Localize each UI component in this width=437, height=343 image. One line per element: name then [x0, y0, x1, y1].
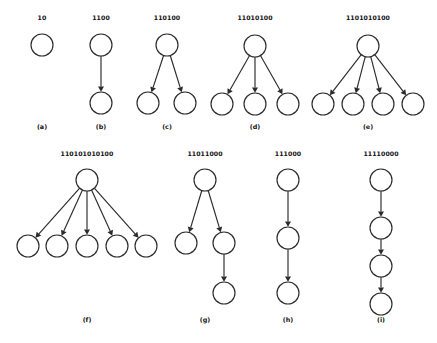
binary-label-i: 11110000 [363, 150, 399, 157]
tree-node-g-grandchild-1 [213, 282, 235, 304]
tree-edge [375, 55, 403, 91]
tree-panel-i: 11110000(i) [363, 150, 399, 324]
panel-caption-i: (i) [377, 316, 385, 324]
tree-node-g-root [194, 169, 216, 191]
edge-arrowhead-icon [98, 87, 104, 92]
tree-node-d-child-3 [277, 93, 299, 115]
binary-label-e: 1101010100 [346, 14, 391, 21]
tree-node-g-child-1 [175, 232, 197, 254]
tree-panel-b: 1100(b) [90, 14, 112, 131]
tree-edge [39, 188, 80, 234]
panel-caption-c: (c) [162, 123, 172, 131]
tree-node-e-child-4 [402, 93, 424, 115]
edge-arrowhead-icon [216, 226, 222, 232]
tree-edge [153, 55, 163, 87]
tree-node-f-child-1 [17, 235, 39, 257]
tree-node-b-child-1 [90, 92, 112, 114]
tree-panel-h: 111000(h) [275, 150, 302, 324]
tree-panel-g: 11011000(g) [175, 150, 235, 324]
tree-node-e-child-2 [342, 93, 364, 115]
tree-node-e-child-1 [312, 93, 334, 115]
binary-label-b: 1100 [92, 14, 110, 21]
tree-node-d-child-2 [244, 93, 266, 115]
tree-node-e-child-3 [372, 93, 394, 115]
tree-node-h-root [277, 169, 299, 191]
figure-root: 10(a)1100(b)110100(c)11010100(d)11010101… [0, 0, 437, 343]
tree-panel-d: 11010100(d) [211, 14, 299, 131]
edge-arrowhead-icon [221, 277, 227, 282]
edge-arrowhead-icon [376, 87, 382, 93]
tree-panel-a: 10(a) [31, 14, 53, 131]
tree-node-b-root [90, 34, 112, 56]
edge-arrowhead-icon [252, 88, 258, 93]
tree-node-c-child-1 [137, 92, 159, 114]
binary-label-h: 111000 [275, 150, 302, 157]
tree-node-c-root [156, 34, 178, 56]
binary-label-a: 10 [38, 14, 47, 21]
tree-edge [333, 55, 361, 91]
tree-node-g-child-2 [213, 232, 235, 254]
edge-arrowhead-icon [84, 230, 90, 235]
edge-arrowhead-icon [188, 226, 194, 232]
binary-label-f: 110101010100 [61, 150, 114, 157]
panel-caption-f: (f) [83, 316, 92, 324]
tree-diagram-canvas: 10(a)1100(b)110100(c)11010100(d)11010101… [0, 0, 437, 343]
binary-label-c: 110100 [154, 14, 181, 21]
tree-node-c-child-2 [174, 92, 196, 114]
tree-node-h-child-2 [277, 282, 299, 304]
tree-node-d-root [244, 35, 266, 57]
tree-node-h-child-1 [277, 227, 299, 249]
panel-caption-d: (d) [250, 123, 260, 131]
tree-node-i-child-1 [370, 217, 392, 239]
tree-edge [170, 56, 180, 88]
panel-caption-g: (g) [200, 316, 210, 324]
panel-caption-h: (h) [283, 316, 293, 324]
panel-caption-b: (b) [96, 123, 106, 131]
edge-arrowhead-icon [354, 87, 360, 93]
edge-arrowhead-icon [285, 277, 291, 282]
binary-label-d: 11010100 [237, 14, 273, 21]
panel-caption-e: (e) [363, 123, 373, 131]
tree-edge [230, 56, 249, 90]
tree-node-e-root [357, 35, 379, 57]
tree-node-f-child-2 [46, 235, 68, 257]
tree-node-d-child-1 [211, 93, 233, 115]
tree-edge [260, 56, 279, 90]
tree-edge [371, 57, 379, 88]
tree-node-i-root [370, 169, 392, 191]
edge-arrowhead-icon [330, 89, 336, 95]
tree-node-f-child-5 [135, 235, 157, 257]
tree-node-i-child-2 [370, 255, 392, 277]
tree-edge [191, 191, 202, 228]
edge-arrowhead-icon [378, 288, 384, 293]
edge-arrowhead-icon [401, 89, 407, 95]
tree-edge [208, 191, 219, 228]
tree-edge [94, 188, 135, 234]
tree-panel-e: 1101010100(e) [312, 14, 424, 131]
tree-panel-f: 110101010100(f) [17, 150, 157, 324]
binary-label-g: 11011000 [187, 150, 223, 157]
tree-edge [357, 57, 365, 88]
edge-arrowhead-icon [378, 250, 384, 255]
tree-node-a-root [31, 34, 53, 56]
edge-arrowhead-icon [378, 212, 384, 217]
tree-node-i-child-3 [370, 293, 392, 315]
panel-caption-a: (a) [37, 123, 47, 131]
edge-arrowhead-icon [285, 222, 291, 227]
tree-node-f-child-3 [76, 235, 98, 257]
tree-panel-c: 110100(c) [137, 14, 196, 131]
tree-node-f-child-4 [106, 235, 128, 257]
tree-node-f-root [76, 169, 98, 191]
